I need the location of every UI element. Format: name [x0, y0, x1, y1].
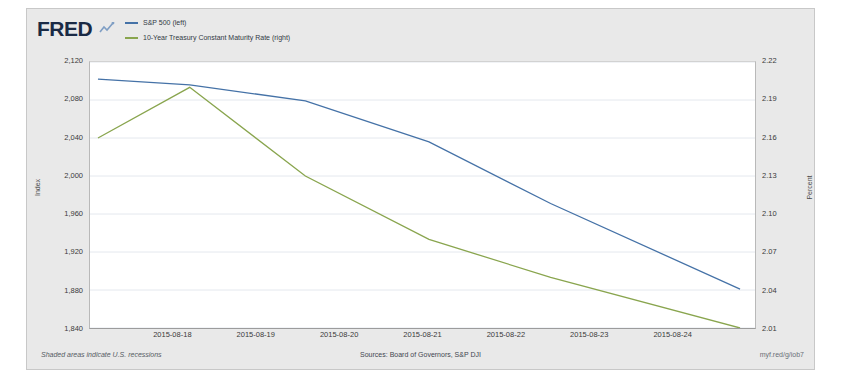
y-axis-right-tick: 2.10: [762, 210, 777, 218]
y-axis-right-tick: 2.07: [762, 248, 777, 256]
series-line-treasury: [98, 87, 740, 328]
series-line-sp500: [98, 79, 740, 289]
x-axis-tick: 2015-08-22: [487, 331, 525, 339]
y-axis-left-tick: 1,960: [64, 210, 83, 218]
y-axis-left-tick: 2,080: [64, 95, 83, 103]
y-axis-left-tick: 2,120: [64, 57, 83, 65]
chart-legend: S&P 500 (left) 10-Year Treasury Constant…: [125, 16, 290, 46]
y-axis-left-tick: 2,000: [64, 172, 83, 180]
y-axis-left-title: Index: [34, 166, 41, 210]
x-axis-tick: 2015-08-20: [320, 331, 358, 339]
y-axis-right-title: Percent: [806, 166, 813, 210]
chart-footer: Shaded areas indicate U.S. recessions So…: [27, 351, 814, 365]
y-axis-right-tick: 2.22: [762, 57, 777, 65]
legend-label-sp500: S&P 500 (left): [143, 19, 186, 26]
x-axis-tick: 2015-08-23: [570, 331, 608, 339]
legend-swatch-sp500: [125, 22, 138, 24]
fred-chart-widget: FRED S&P 500 (left) 10-Year Treasury Con…: [26, 8, 815, 370]
y-axis-right-tick: 2.13: [762, 172, 777, 180]
x-axis-tick: 2015-08-19: [237, 331, 275, 339]
y-axis-right-tick: 2.01: [762, 325, 777, 333]
sources-label: Sources: Board of Governors, S&P DJI: [360, 351, 481, 358]
y-axis-right-tick: 2.04: [762, 287, 777, 295]
y-axis-left-tick: 1,880: [64, 287, 83, 295]
legend-item-treasury[interactable]: 10-Year Treasury Constant Maturity Rate …: [125, 31, 290, 44]
y-axis-left-tick: 1,840: [64, 325, 83, 333]
gridlines: [90, 62, 755, 328]
y-axis-left-tick: 2,040: [64, 134, 83, 142]
y-axis-left-tick: 1,920: [64, 248, 83, 256]
legend-label-treasury: 10-Year Treasury Constant Maturity Rate …: [143, 34, 290, 41]
legend-item-sp500[interactable]: S&P 500 (left): [125, 16, 290, 29]
y-axis-right-ticks: 2.012.042.072.102.132.162.192.22: [762, 61, 810, 329]
recession-footnote: Shaded areas indicate U.S. recessions: [41, 351, 162, 358]
line-chart-glyph-icon: [99, 22, 115, 34]
x-axis-tick: 2015-08-21: [403, 331, 441, 339]
y-axis-right-tick: 2.19: [762, 95, 777, 103]
x-axis-tick: 2015-08-18: [153, 331, 191, 339]
legend-swatch-treasury: [125, 37, 138, 39]
fred-logo[interactable]: FRED: [37, 18, 92, 39]
y-axis-right-tick: 2.16: [762, 134, 777, 142]
x-axis-tick: 2015-08-24: [653, 331, 691, 339]
permalink-label[interactable]: myf.red/g/iob7: [760, 351, 804, 358]
y-axis-left-ticks: 1,8401,8801,9201,9602,0002,0402,0802,120: [35, 61, 83, 329]
plot-area: [89, 61, 756, 329]
x-axis-ticks: 2015-08-182015-08-192015-08-202015-08-21…: [89, 331, 756, 345]
plot-canvas: [90, 62, 755, 328]
chart-header: FRED S&P 500 (left) 10-Year Treasury Con…: [27, 9, 814, 53]
